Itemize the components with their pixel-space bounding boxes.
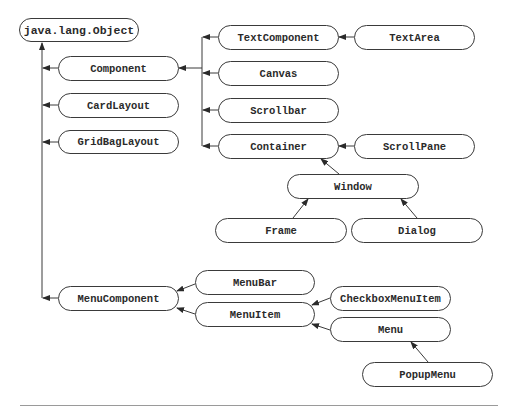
node-frame: Frame bbox=[215, 218, 347, 243]
class-hierarchy-diagram: java.lang.Object Component CardLayout Gr… bbox=[0, 0, 508, 410]
node-container: Container bbox=[218, 134, 339, 159]
node-scrollpane: ScrollPane bbox=[354, 134, 475, 159]
node-scrollbar: Scrollbar bbox=[218, 98, 339, 123]
node-java-lang-object: java.lang.Object bbox=[19, 18, 139, 42]
node-popupmenu: PopupMenu bbox=[362, 362, 493, 387]
node-textarea: TextArea bbox=[354, 25, 475, 50]
node-dialog: Dialog bbox=[351, 218, 483, 243]
node-menu: Menu bbox=[330, 317, 451, 342]
node-component: Component bbox=[58, 56, 179, 81]
node-menuitem: MenuItem bbox=[195, 302, 315, 327]
node-checkboxmenuitem: CheckboxMenuItem bbox=[330, 286, 451, 311]
node-menucomponent: MenuComponent bbox=[58, 286, 179, 311]
node-window: Window bbox=[287, 174, 419, 199]
node-menubar: MenuBar bbox=[195, 270, 315, 295]
bottom-divider bbox=[20, 405, 498, 406]
node-textcomponent: TextComponent bbox=[218, 25, 339, 50]
node-canvas: Canvas bbox=[218, 61, 339, 86]
node-cardlayout: CardLayout bbox=[58, 93, 179, 118]
node-gridbaglayout: GridBagLayout bbox=[58, 130, 179, 154]
